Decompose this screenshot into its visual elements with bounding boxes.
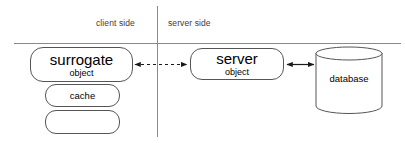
node-surrogate-object[interactable]: surrogate object <box>30 47 133 82</box>
node-cache-label: cache <box>70 91 95 101</box>
diagram-canvas: server --> database --> client side serv… <box>0 0 405 143</box>
node-database-label: database <box>316 73 382 84</box>
node-surrogate-subtitle: object <box>69 68 93 78</box>
node-surrogate-title: surrogate <box>50 52 113 67</box>
zone-label-client-side: client side <box>96 18 135 28</box>
node-cache[interactable]: cache <box>45 84 120 107</box>
node-server-object[interactable]: server object <box>190 48 284 80</box>
node-server-title: server <box>216 51 258 66</box>
node-server-subtitle: object <box>225 67 249 77</box>
zone-label-server-side: server side <box>168 18 211 28</box>
node-empty-slot[interactable] <box>45 110 120 134</box>
